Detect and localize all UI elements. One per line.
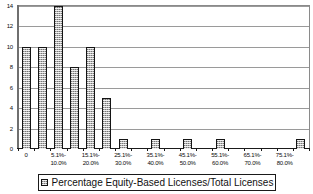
x-tick <box>244 148 245 151</box>
y-tick-label: 2 <box>10 126 13 132</box>
bar-chart: 02468101214 05.1%- 10.0%15.1%- 20.0%25.1… <box>0 0 313 194</box>
plot-wrapper: 02468101214 05.1%- 10.0%15.1%- 20.0%25.1… <box>0 2 313 152</box>
bar <box>296 139 305 149</box>
bar <box>183 139 192 149</box>
bar <box>70 67 79 149</box>
x-tick <box>115 148 116 151</box>
x-tick-label: 25.1%- 30.0% <box>114 152 132 167</box>
bar <box>54 6 63 149</box>
x-tick-label: 55.1%- 60.0% <box>211 152 229 167</box>
x-tick <box>180 148 181 151</box>
x-tick-label: 0 <box>25 152 28 160</box>
x-tick-label: 75.1%- 80.0% <box>276 152 294 167</box>
y-tick-label: 6 <box>10 85 13 91</box>
y-tick-label: 0 <box>10 146 13 152</box>
x-tick-label: 15.1%- 20.0% <box>82 152 100 167</box>
y-tick-label: 10 <box>7 44 13 50</box>
x-tick-label: 5.1%- 10.0% <box>50 152 66 167</box>
y-axis-tick-labels: 02468101214 <box>0 2 15 151</box>
y-tick-label: 4 <box>10 105 13 111</box>
bar <box>119 139 128 149</box>
x-tick <box>196 148 197 151</box>
x-tick <box>50 148 51 151</box>
x-tick <box>83 148 84 151</box>
x-tick <box>212 148 213 151</box>
y-tick-label: 12 <box>7 23 13 29</box>
bar <box>38 47 47 149</box>
x-tick-label: 35.1%- 40.0% <box>147 152 165 167</box>
bar <box>216 139 225 149</box>
x-tick <box>18 148 19 151</box>
bar <box>102 98 111 149</box>
x-tick <box>147 148 148 151</box>
x-tick-label: 45.1%- 50.0% <box>179 152 197 167</box>
bars-layer <box>18 6 309 149</box>
bar <box>86 47 95 149</box>
bar <box>22 47 31 149</box>
x-tick <box>131 148 132 151</box>
bar <box>151 139 160 149</box>
x-tick <box>309 148 310 151</box>
x-tick-label: 65.1%- 70.0% <box>244 152 262 167</box>
y-tick-label: 8 <box>10 64 13 70</box>
x-tick <box>277 148 278 151</box>
chart-legend: Percentage Equity-Based Licenses/Total L… <box>38 174 276 191</box>
x-tick <box>293 148 294 151</box>
x-tick <box>164 148 165 151</box>
x-tick <box>34 148 35 151</box>
legend-label: Percentage Equity-Based Licenses/Total L… <box>52 177 274 188</box>
x-tick <box>67 148 68 151</box>
x-axis-tick-labels: 05.1%- 10.0%15.1%- 20.0%25.1%- 30.0%35.1… <box>17 152 310 174</box>
x-tick <box>99 148 100 151</box>
x-tick <box>228 148 229 151</box>
legend-swatch-icon <box>41 179 48 186</box>
x-tick <box>261 148 262 151</box>
y-tick-label: 14 <box>7 3 13 9</box>
